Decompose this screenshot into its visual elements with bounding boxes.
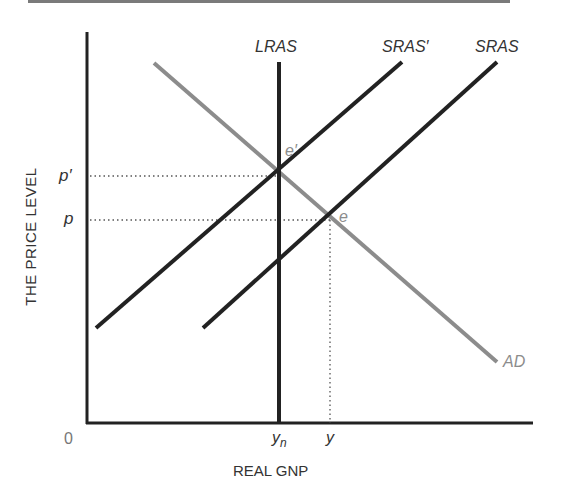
lras-label: LRAS: [255, 38, 297, 56]
yn-sub: n: [280, 436, 287, 450]
ad-as-diagram: [0, 0, 567, 501]
x-axis-label: REAL GNP: [233, 462, 308, 479]
yn-base: y: [272, 429, 280, 446]
y-axis-label: THE PRICE LEVEL: [22, 157, 39, 317]
e-prime-label: e′: [285, 142, 297, 160]
sras-prime-label: SRAS′: [382, 38, 429, 56]
ad-label: AD: [503, 353, 525, 371]
sras-label: SRAS: [475, 38, 519, 56]
y-label: y: [326, 429, 334, 447]
p-label: p: [64, 209, 73, 229]
e-label: e: [339, 208, 348, 226]
origin-label: 0: [64, 430, 73, 448]
yn-label: yn: [272, 429, 287, 450]
p-prime-label: p′: [59, 166, 72, 186]
